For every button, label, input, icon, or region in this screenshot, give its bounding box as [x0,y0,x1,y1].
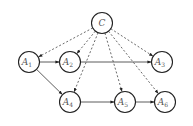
node-a4: A4 [60,92,81,113]
node-label: C [99,18,106,28]
node-a6: A6 [155,92,176,113]
edges-layer [37,28,159,102]
nodes-layer: CA1A2A3A4A5A6 [19,13,176,113]
edge-c-to-a2 [77,31,95,53]
node-c: C [92,13,113,34]
node-a3: A3 [152,52,173,73]
node-a5: A5 [115,92,136,113]
edge-a1-to-a4 [37,69,63,94]
node-a1: A1 [19,52,40,73]
node-a2: A2 [60,52,81,73]
edge-c-to-a3 [111,29,153,56]
causal-graph: CA1A2A3A4A5A6 [0,0,193,126]
